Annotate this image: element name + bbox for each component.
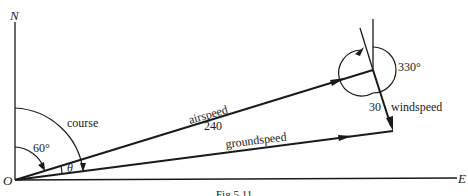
airspeed-magnitude: 240 <box>204 119 222 133</box>
theta-label: θ <box>67 161 73 175</box>
wind-bearing-label: 330° <box>398 60 421 74</box>
groundspeed-arrowhead <box>338 135 352 141</box>
heading-angle-label: 60° <box>33 141 50 155</box>
course-label: course <box>67 116 98 130</box>
heading-angle-arrowhead <box>38 162 45 171</box>
vector-diagram: N E O 60° course θ airspeed 240 groundsp… <box>0 0 468 196</box>
east-label: E <box>457 171 466 186</box>
figure-caption: Fig 5.11 <box>216 188 252 196</box>
wind-bearing-arrowhead <box>355 47 364 56</box>
windspeed-arrowhead <box>386 116 393 131</box>
origin-label: O <box>3 173 13 188</box>
north-label: N <box>9 8 20 23</box>
theta-arc <box>61 166 62 174</box>
east-axis <box>15 178 457 180</box>
windspeed-magnitude: 30 <box>369 100 381 114</box>
airspeed-arrowhead <box>330 78 345 86</box>
windspeed-label: windspeed <box>391 100 442 114</box>
